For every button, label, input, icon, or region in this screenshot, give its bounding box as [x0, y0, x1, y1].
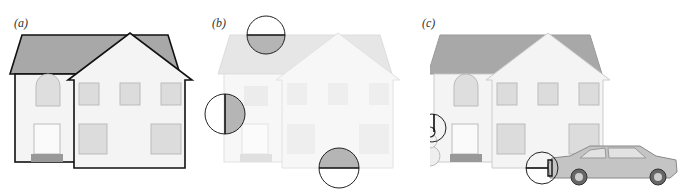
house-c-illustration — [430, 0, 690, 195]
panel-a: (a) — [0, 0, 200, 195]
aperture-ground — [319, 148, 359, 188]
house-b-illustration — [200, 0, 430, 195]
aperture-roof — [247, 16, 285, 54]
aperture-wall — [205, 94, 245, 134]
house-a-illustration — [0, 0, 200, 195]
panel-c: (c) — [430, 0, 690, 195]
panel-b: (b) — [200, 0, 430, 195]
